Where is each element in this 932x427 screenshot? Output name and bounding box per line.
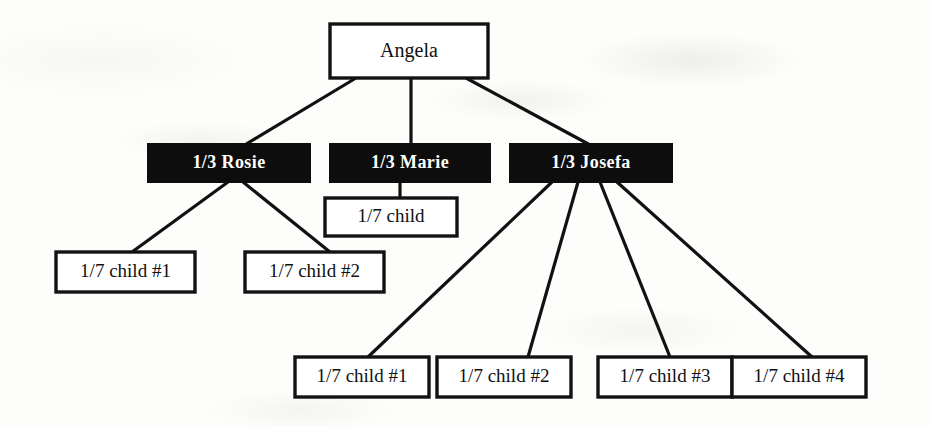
node-josefa-c1[interactable]: 1/7 child #1 — [295, 357, 429, 397]
edge-angela-josefa — [466, 78, 592, 146]
node-angela[interactable]: Angela — [330, 24, 488, 78]
edge-rosie-child1 — [132, 182, 228, 252]
edge-josefa-child4 — [617, 182, 812, 357]
node-label-josefa-c4: 1/7 child #4 — [754, 365, 845, 386]
node-label-rosie-c2: 1/7 child #2 — [269, 260, 360, 281]
node-josefa[interactable]: 1/3 Josefa — [510, 144, 672, 182]
node-label-marie-c1: 1/7 child — [357, 205, 425, 226]
node-label-angela: Angela — [380, 39, 438, 62]
node-label-josefa-c3: 1/7 child #3 — [620, 365, 711, 386]
edge-josefa-child3 — [600, 182, 670, 357]
node-marie-c1[interactable]: 1/7 child — [325, 198, 457, 236]
node-label-marie: 1/3 Marie — [371, 152, 449, 172]
node-rosie-c2[interactable]: 1/7 child #2 — [245, 252, 384, 292]
edge-angela-rosie — [243, 78, 356, 146]
node-label-josefa-c1: 1/7 child #1 — [317, 365, 408, 386]
node-layer: Angela1/3 Rosie1/3 Marie1/3 Josefa1/7 ch… — [56, 24, 866, 397]
node-label-josefa: 1/3 Josefa — [551, 152, 631, 172]
node-label-rosie: 1/3 Rosie — [192, 152, 265, 172]
edge-layer — [132, 78, 812, 357]
node-rosie-c1[interactable]: 1/7 child #1 — [56, 252, 195, 292]
node-josefa-c4[interactable]: 1/7 child #4 — [732, 357, 866, 397]
node-josefa-c2[interactable]: 1/7 child #2 — [437, 357, 571, 397]
node-rosie[interactable]: 1/3 Rosie — [148, 144, 310, 182]
family-share-tree-diagram: Angela1/3 Rosie1/3 Marie1/3 Josefa1/7 ch… — [0, 0, 932, 427]
edge-rosie-child2 — [243, 182, 330, 252]
diagram-page: Angela1/3 Rosie1/3 Marie1/3 Josefa1/7 ch… — [0, 0, 932, 427]
node-josefa-c3[interactable]: 1/7 child #3 — [598, 357, 732, 397]
node-marie[interactable]: 1/3 Marie — [330, 144, 490, 182]
node-label-josefa-c2: 1/7 child #2 — [459, 365, 550, 386]
node-label-rosie-c1: 1/7 child #1 — [80, 260, 171, 281]
edge-josefa-child2 — [528, 182, 578, 357]
